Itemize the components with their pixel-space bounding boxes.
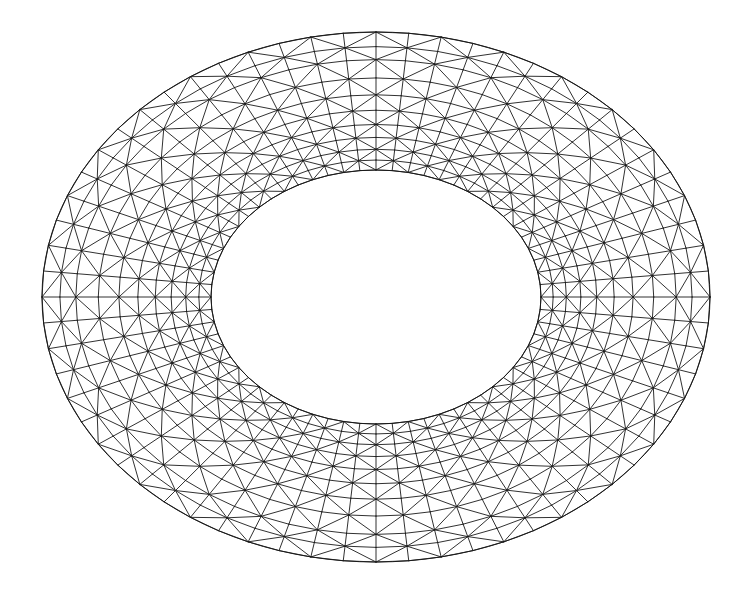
- annulus-mesh-canvas: Triangulated Annulus Mesh: [0, 0, 742, 594]
- mesh-figure: Triangulated Annulus Mesh: [0, 0, 742, 594]
